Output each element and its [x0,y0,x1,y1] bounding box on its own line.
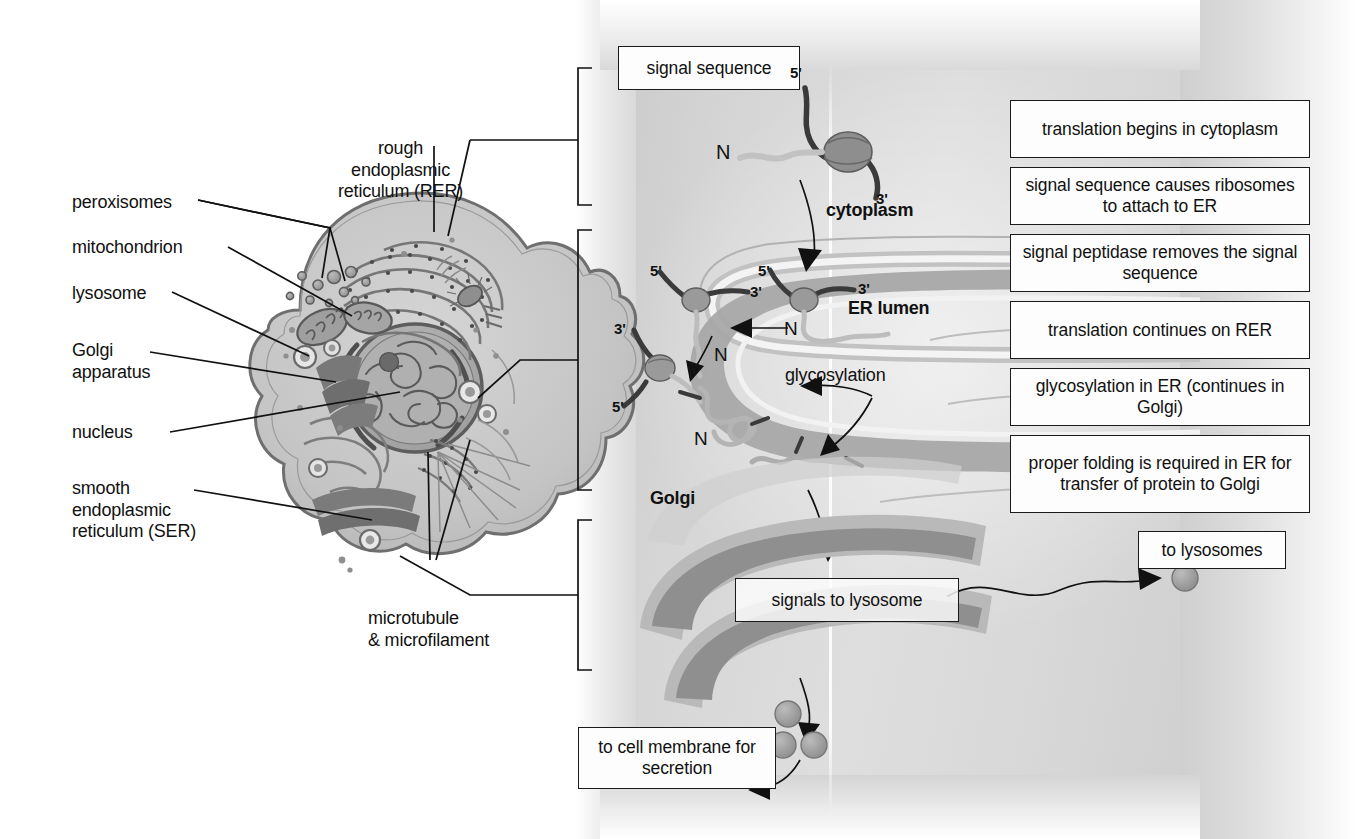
label-n-terminus-cytoplasm: N [716,140,730,164]
label-5prime-er-mid: 5' [758,262,770,280]
compartment-label-golgi: Golgi [650,488,695,510]
box-signal-sequence: signal sequence [618,46,800,90]
label-n-terminus-er-2: N [714,344,728,367]
box-signals-to-lysosome: signals to lysosome [735,578,959,622]
label-leader-lines [150,146,470,560]
cytoskeleton-filaments [438,444,530,532]
step-box-2: signal sequence causes ribosomes to atta… [1010,167,1310,225]
lysosome-shape [294,346,316,368]
centriole-shape [447,274,502,327]
label-3prime-er-left: 3' [750,283,762,301]
compartment-label-cytoplasm: cytoplasm [826,200,913,222]
label-glycosylation: glycosylation [785,365,885,387]
cell-label-nucleus: nucleus [72,422,133,444]
cell-label-cytoskeleton: microtubule & microfilament [368,608,489,651]
label-3prime-er-outer: 3' [614,320,626,338]
step-box-6: proper folding is required in ER for tra… [1010,435,1310,513]
mitochondrion-shape [292,302,353,352]
step-box-1: translation begins in cytoplasm [1010,100,1310,158]
label-5prime-er-left: 5' [650,262,662,280]
mitochondrion-shape-2 [341,298,394,337]
peroxisome-cluster [286,267,370,307]
cell-label-smooth-er: smooth endoplasmic reticulum (SER) [72,478,196,543]
step-box-3: signal peptidase removes the signal sequ… [1010,234,1310,292]
cell-label-golgi-apparatus: Golgi apparatus [72,340,150,383]
panel-left-fade [576,0,636,839]
golgi-stack-cell [316,355,378,436]
compartment-label-er-lumen: ER lumen [848,298,929,320]
label-5prime-er-outer: 5' [612,398,624,416]
cell-label-peroxisomes: peroxisomes [72,192,172,214]
label-n-terminus-er-1: N [784,318,798,341]
scan-fold-artifact [829,60,832,820]
figure-root: peroxisomes mitochondrion lysosome Golgi… [0,0,1356,839]
cell-label-lysosome: lysosome [72,283,146,305]
cell-label-mitochondrion: mitochondrion [72,237,182,259]
label-3prime-er-mid: 3' [858,280,870,298]
cell-label-rough-er: rough endoplasmic reticulum (RER) [338,138,463,203]
box-to-cell-membrane: to cell membrane for secretion [578,727,776,789]
box-to-lysosomes: to lysosomes [1138,531,1286,569]
step-box-5: glycosylation in ER (continues in Golgi) [1010,368,1310,426]
label-n-terminus-er-3: N [694,428,708,451]
step-box-4: translation continues on RER [1010,301,1310,359]
label-3prime-cytoplasm: 3' [876,190,888,208]
label-5prime-cytoplasm: 5' [790,64,802,82]
